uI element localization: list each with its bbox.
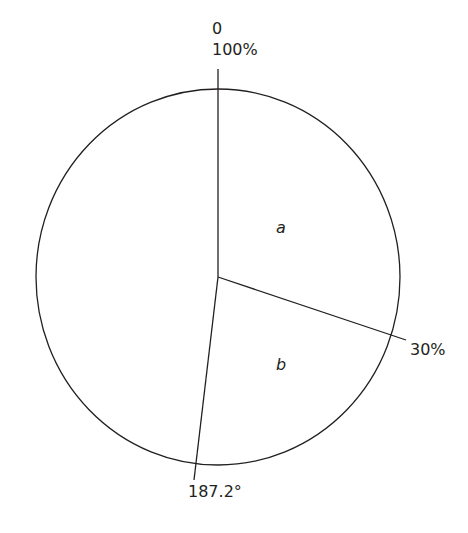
- label-zero: 0: [212, 20, 222, 38]
- label-30-percent: 30%: [410, 341, 446, 359]
- label-100-percent: 100%: [212, 41, 258, 59]
- pie-chart: [0, 0, 468, 533]
- slice-label-a: a: [276, 218, 286, 237]
- label-187-degrees: 187.2°: [188, 483, 242, 501]
- slice-label-b: b: [276, 355, 286, 374]
